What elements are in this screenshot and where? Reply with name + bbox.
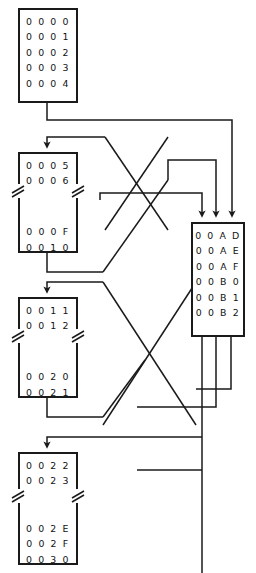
address-list: 0 0 1 10 0 1 20 0 2 00 0 2 1 (20, 299, 76, 410)
address-row: 0 0 1 2 (26, 321, 70, 330)
address-row: 0 0 2 2 (26, 461, 70, 470)
address-row: 0 0 0 0 (26, 17, 70, 26)
memory-block-0011: 0 0 1 10 0 1 20 0 2 00 0 2 1 (18, 297, 78, 398)
address-row: 0 0 0 1 (26, 32, 70, 41)
address-list: 0 0 2 20 0 2 30 0 2 E0 0 2 F0 0 3 0 (20, 454, 76, 573)
wire-block2-diagonal (103, 180, 168, 272)
wire-block3-diagonal (103, 360, 145, 417)
memory-block-0000: 0 0 0 00 0 0 10 0 0 20 0 0 30 0 0 4 (18, 8, 78, 103)
address-row: 0 0 0 3 (26, 63, 70, 72)
address-row: 0 0 A D (195, 231, 241, 240)
address-row: 0 0 3 0 (26, 555, 70, 564)
address-row: 0 0 0 F (26, 227, 69, 236)
address-list: 0 0 A D0 0 A E0 0 A F0 0 B 00 0 B 10 0 B… (193, 224, 243, 349)
wire-into-block2 (47, 137, 105, 145)
wire-into-block3 (47, 282, 103, 290)
address-list: 0 0 0 00 0 0 10 0 0 20 0 0 30 0 0 4 (20, 10, 76, 115)
address-row: 0 0 B 0 (196, 277, 240, 286)
address-row: 0 0 B 2 (196, 308, 240, 317)
memory-block-0005: 0 0 0 50 0 0 60 0 0 F0 0 1 0 (18, 152, 78, 253)
address-row: 0 0 0 6 (26, 176, 70, 185)
address-row: 0 0 2 E (26, 524, 70, 533)
wire-into-block4 (47, 437, 202, 445)
address-row: 0 0 B 1 (196, 293, 240, 302)
diagram-canvas: 0 0 0 00 0 0 10 0 0 20 0 0 30 0 0 40 0 0… (0, 0, 256, 573)
address-row: 0 0 0 2 (26, 48, 70, 57)
wire-to-block5-in2 (168, 160, 216, 214)
address-list: 0 0 0 50 0 0 60 0 0 F0 0 1 0 (20, 154, 76, 265)
address-row: 0 0 A F (196, 262, 240, 271)
address-row: 0 0 2 3 (26, 476, 70, 485)
address-row: 0 0 2 0 (26, 372, 70, 381)
address-row: 0 0 0 4 (26, 79, 70, 88)
address-row: 0 0 0 5 (26, 161, 70, 170)
address-row: 0 0 2 1 (26, 388, 70, 397)
memory-block-0022: 0 0 2 20 0 2 30 0 2 E0 0 2 F0 0 3 0 (18, 452, 78, 565)
address-row: 0 0 2 F (26, 539, 69, 548)
address-row: 0 0 1 1 (26, 306, 70, 315)
address-row: 0 0 A E (196, 246, 240, 255)
memory-block-00AD: 0 0 A D0 0 A E0 0 A F0 0 B 00 0 B 10 0 B… (191, 222, 245, 337)
address-row: 0 0 1 0 (26, 243, 70, 252)
